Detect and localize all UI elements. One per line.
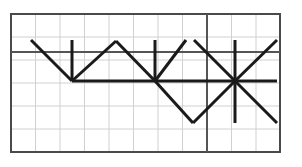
ray-diagram-figure [0, 0, 302, 167]
diagram-canvas [0, 0, 302, 167]
